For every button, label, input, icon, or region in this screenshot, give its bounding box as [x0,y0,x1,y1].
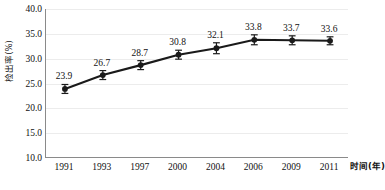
x-axis-tick-label: 2004 [206,161,225,173]
y-axis-tick-label: 10.0 [8,153,42,163]
data-point-marker [100,72,106,78]
data-point-label: 33.6 [321,24,338,34]
data-point-label: 23.9 [56,71,73,81]
x-axis-tick-label: 2000 [168,161,187,173]
data-point-marker [327,38,333,44]
data-point-label: 33.7 [283,23,300,33]
data-point-label: 26.7 [94,58,111,68]
data-point-marker [251,37,257,43]
data-point-marker [176,52,182,58]
data-point-label: 32.1 [207,30,224,40]
data-point-label: 30.8 [169,37,186,47]
data-point-label: 33.8 [245,22,262,32]
data-point-label: 28.7 [131,48,148,58]
y-axis-tick-label: 20.0 [8,103,42,113]
data-point-marker [214,45,220,51]
data-point-marker [62,86,68,92]
plot-area [45,9,348,158]
series-line-detection-rate [46,9,349,158]
y-axis-tick-label: 15.0 [8,128,42,138]
x-axis-tick-label: 1993 [92,161,111,173]
y-axis-tick-label: 25.0 [8,79,42,89]
y-axis-tick-label: 35.0 [8,29,42,39]
x-axis-tick-label: 2009 [282,161,301,173]
data-point-marker [289,37,295,43]
y-axis-tick-labels: 40.035.030.025.020.015.010.0 [4,0,42,190]
x-axis-tick-label: 2006 [244,161,263,173]
y-axis-tick-label: 30.0 [8,54,42,64]
data-point-marker [138,62,144,68]
y-axis-tick-label: 40.0 [8,4,42,14]
x-axis-tick-label: 2011 [320,161,339,173]
x-axis-title: 时间(年) [350,160,385,173]
x-axis-tick-labels: 19911993199720002004200620092011 [45,161,348,175]
x-axis-tick-label: 1997 [130,161,149,173]
x-axis-tick-label: 1991 [54,161,73,173]
